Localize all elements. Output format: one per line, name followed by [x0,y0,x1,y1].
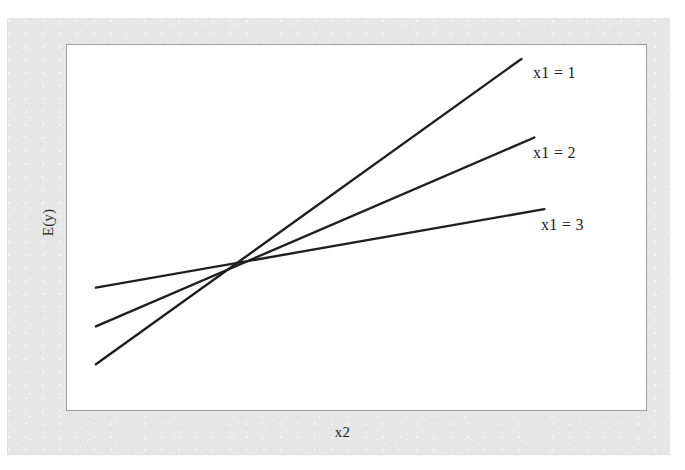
series-line-x1-3 [96,209,544,288]
y-axis-title: E(y) [40,180,57,266]
figure-panel: x1 = 1 x1 = 2 x1 = 3 E(y) [7,18,670,455]
series-label-x1-1: x1 = 1 [533,64,576,82]
cut-off-page-text: 1 1 1 [0,0,685,6]
series-label-x1-3: x1 = 3 [541,216,584,234]
x-axis-title: x2 [0,424,685,441]
series-line-x1-1 [96,59,522,364]
series-label-x1-2: x1 = 2 [533,144,576,162]
series-line-x1-2 [96,137,534,326]
cut-off-page-text-glyphs: 1 1 1 [120,0,149,1]
